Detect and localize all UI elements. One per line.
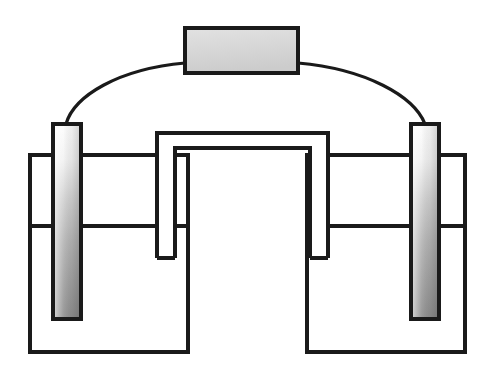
electrode-right-group — [411, 124, 439, 319]
electrode-left-group — [53, 124, 81, 319]
wire-right — [298, 63, 425, 124]
electrochemical-cell-diagram — [0, 0, 487, 384]
electrode-right-shading — [413, 126, 437, 317]
beaker-right-group — [307, 155, 465, 352]
wire-left — [66, 63, 185, 124]
salt-bridge-inner-wall — [175, 148, 310, 258]
meter-box-group — [185, 28, 298, 73]
meter-box — [185, 28, 298, 73]
beaker-right — [307, 155, 465, 352]
diagram-canvas — [0, 0, 487, 384]
electrode-left-shading — [55, 126, 79, 317]
